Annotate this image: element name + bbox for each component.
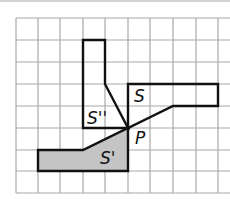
point-p xyxy=(126,126,130,130)
label-s-prime: S' xyxy=(100,148,115,168)
label-p: P xyxy=(135,128,146,148)
transformation-diagram: S S'' S' P xyxy=(0,0,230,199)
label-s-double-prime: S'' xyxy=(87,108,107,128)
label-s: S xyxy=(134,86,145,106)
